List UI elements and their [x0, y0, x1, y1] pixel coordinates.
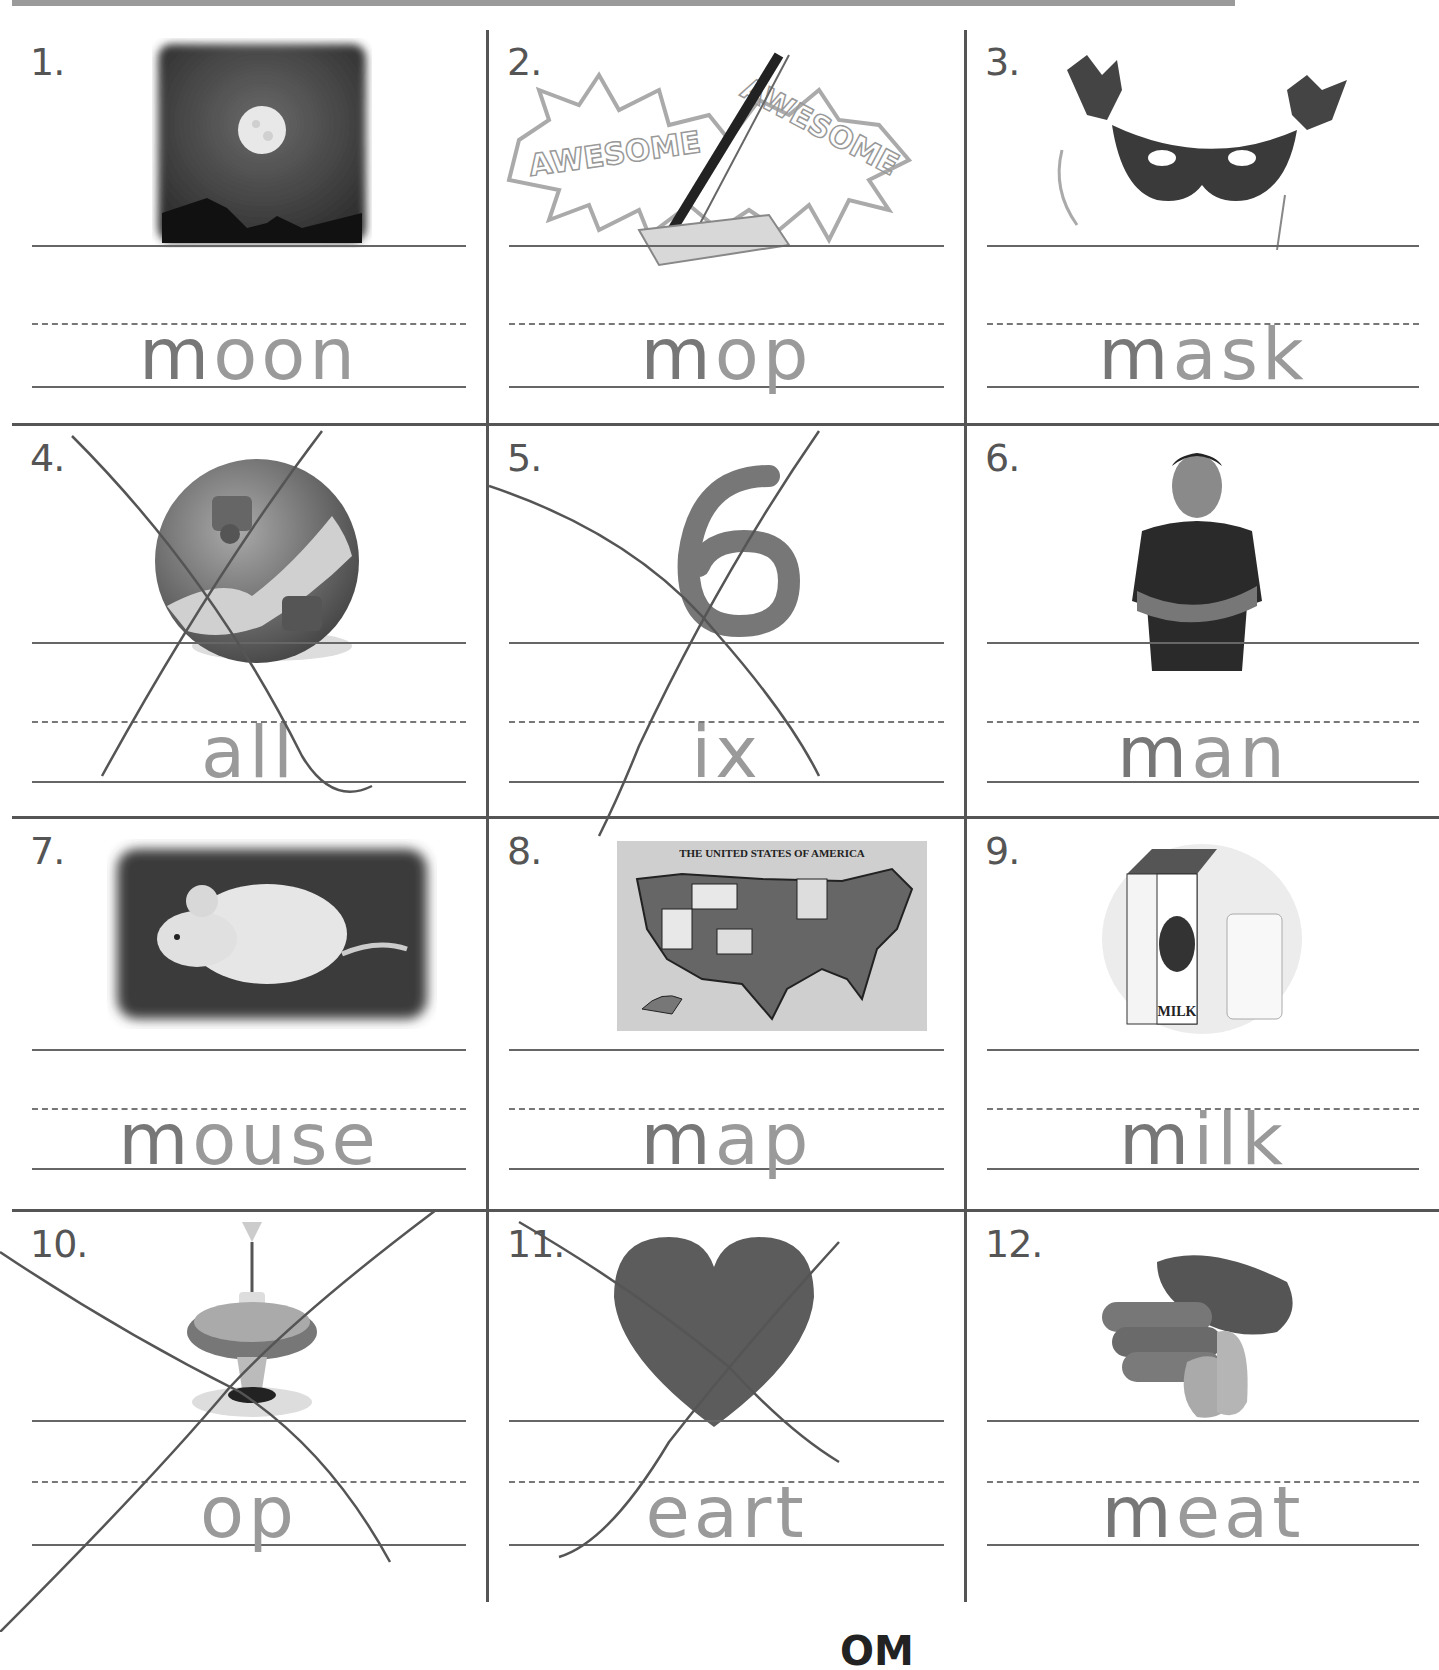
worksheet-item-12: 12. meat	[967, 1212, 1439, 1602]
handwritten-letter: m	[641, 312, 715, 396]
word-answer: map	[509, 1103, 944, 1175]
printed-letters: ouse	[192, 1097, 380, 1181]
top-writing-line	[987, 1049, 1419, 1051]
top-writing-line	[509, 1049, 944, 1051]
item-number: 8.	[507, 829, 541, 873]
top-writing-line	[987, 245, 1419, 247]
map-title: THE UNITED STATES OF AMERICA	[679, 847, 865, 859]
worksheet-item-3: 3. mask	[967, 30, 1439, 423]
footer-text-fragment: OM	[840, 1628, 914, 1670]
worksheet-item-10: 10. op	[12, 1212, 486, 1602]
moon-icon	[152, 38, 372, 248]
printed-letters: ix	[691, 710, 762, 794]
word-answer: all	[32, 716, 466, 788]
handwritten-letter: m	[118, 1097, 192, 1181]
printed-letters: ask	[1172, 312, 1307, 396]
worksheet-item-7: 7. mouse	[12, 819, 486, 1209]
man-icon	[1117, 441, 1277, 671]
meat-icon	[1087, 1232, 1317, 1432]
item-number: 3.	[985, 40, 1019, 84]
worksheet-item-5: 5. ix	[489, 426, 964, 816]
top-writing-line	[32, 642, 466, 644]
top-writing-line	[32, 1420, 466, 1422]
top-writing-line	[32, 245, 466, 247]
handwritten-letter: m	[1117, 710, 1191, 794]
mouse-icon	[107, 839, 437, 1029]
top-writing-line	[509, 245, 944, 247]
printed-letters: op	[715, 312, 813, 396]
printed-letters: an	[1191, 710, 1289, 794]
handwritten-letter: m	[1102, 1470, 1176, 1554]
worksheet-item-9: 9. MILK milk	[967, 819, 1439, 1209]
word-answer: op	[32, 1476, 466, 1548]
top-writing-line	[987, 1420, 1419, 1422]
item-number: 11.	[507, 1222, 564, 1266]
top-writing-line	[509, 642, 944, 644]
word-answer: milk	[987, 1103, 1419, 1175]
printed-letters: op	[200, 1470, 298, 1554]
item-number: 10.	[30, 1222, 87, 1266]
item-number: 7.	[30, 829, 64, 873]
printed-letters: all	[201, 710, 297, 794]
word-answer: meat	[987, 1476, 1419, 1548]
word-answer: ix	[509, 716, 944, 788]
word-answer: mouse	[32, 1103, 466, 1175]
worksheet-item-2: 2. AWESOME AWESOME mop	[489, 30, 964, 423]
worksheet-item-6: 6. man	[967, 426, 1439, 816]
item-number: 1.	[30, 40, 64, 84]
word-answer: moon	[32, 318, 466, 390]
svg-text:AWESOME: AWESOME	[527, 124, 703, 183]
milk-icon: MILK	[1097, 834, 1307, 1034]
word-answer: mop	[509, 318, 944, 390]
mop-icon: AWESOME AWESOME	[489, 30, 964, 280]
printed-letters: ap	[715, 1097, 813, 1181]
worksheet-item-1: 1. moon	[12, 30, 486, 423]
heart-icon	[599, 1227, 829, 1437]
worksheet-item-11: 11. eart	[489, 1212, 964, 1602]
worksheet-item-8: 8. THE UNITED STATES OF AMERICA map	[489, 819, 964, 1209]
handwritten-letter: m	[641, 1097, 715, 1181]
usa-map-icon: THE UNITED STATES OF AMERICA	[617, 841, 927, 1031]
item-number: 5.	[507, 436, 541, 480]
printed-letters: eat	[1176, 1470, 1305, 1554]
printed-letters: ilk	[1193, 1097, 1287, 1181]
word-answer: man	[987, 716, 1419, 788]
top-writing-line	[32, 1049, 466, 1051]
top-border-strip	[12, 0, 1235, 6]
top-writing-line	[987, 642, 1419, 644]
handwritten-letter: m	[139, 312, 213, 396]
top-writing-line	[509, 1420, 944, 1422]
mask-icon	[1027, 50, 1377, 250]
item-number: 4.	[30, 436, 64, 480]
handwritten-letter: m	[1098, 312, 1172, 396]
worksheet-item-4: 4. all	[12, 426, 486, 816]
word-answer: eart	[509, 1476, 944, 1548]
item-number: 6.	[985, 436, 1019, 480]
item-number: 12.	[985, 1222, 1042, 1266]
handwritten-letter: m	[1119, 1097, 1193, 1181]
spinning-top-icon	[177, 1217, 327, 1427]
printed-letters: oon	[213, 312, 359, 396]
worksheet-grid: 1. moon 2. AWESOME AWESOME	[12, 30, 1439, 1602]
word-answer: mask	[987, 318, 1419, 390]
item-number: 9.	[985, 829, 1019, 873]
number-six-icon	[649, 456, 809, 656]
printed-letters: eart	[645, 1470, 807, 1554]
svg-text:MILK: MILK	[1158, 1004, 1197, 1019]
